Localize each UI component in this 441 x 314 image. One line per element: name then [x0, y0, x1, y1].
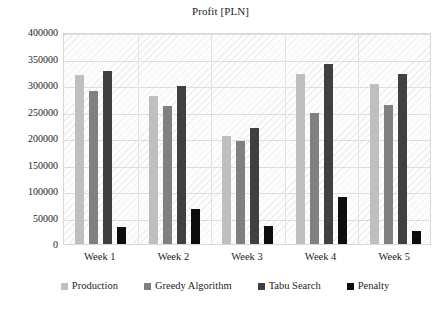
y-axis-tick-label: 250000 — [0, 108, 58, 118]
bar-production — [370, 84, 379, 244]
bar-tabu-search — [398, 74, 407, 244]
bar-greedy-algorithm — [384, 105, 393, 244]
bar-greedy-algorithm — [89, 91, 98, 244]
y-axis-tick-label: 400000 — [0, 28, 58, 38]
bar-greedy-algorithm — [310, 113, 319, 244]
bar-penalty — [191, 209, 200, 244]
legend-item-penalty[interactable]: Penalty — [347, 280, 390, 292]
legend-swatch-icon — [61, 283, 68, 290]
profit-bar-chart: Profit [PLN] 400000350000300000250000200… — [0, 0, 441, 314]
x-axis-tick-label: Week 3 — [210, 250, 284, 266]
legend-swatch-icon — [144, 283, 151, 290]
chart-legend: ProductionGreedy AlgorithmTabu SearchPen… — [20, 277, 430, 295]
bar-production — [75, 75, 84, 244]
bar-greedy-algorithm — [236, 141, 245, 244]
bar-production — [149, 96, 158, 244]
x-axis-tick-label: Week 2 — [137, 250, 211, 266]
bar-penalty — [412, 231, 421, 244]
bar-penalty — [264, 226, 273, 244]
bar-tabu-search — [324, 64, 333, 244]
bar-penalty — [117, 227, 126, 244]
x-axis: Week 1Week 2Week 3Week 4Week 5 — [63, 250, 431, 266]
y-axis-tick-label: 150000 — [0, 161, 58, 171]
bar-tabu-search — [103, 71, 112, 244]
bar-production — [222, 136, 231, 244]
legend-swatch-icon — [347, 283, 354, 290]
y-axis-tick-label: 50000 — [0, 214, 58, 224]
y-axis-tick-label: 300000 — [0, 81, 58, 91]
x-axis-tick-label: Week 5 — [357, 250, 431, 266]
legend-label: Tabu Search — [269, 280, 321, 292]
legend-item-tabu-search[interactable]: Tabu Search — [258, 280, 321, 292]
y-axis: 4000003500003000002500002000001500001000… — [0, 33, 58, 245]
legend-label: Penalty — [358, 280, 390, 292]
bar-greedy-algorithm — [163, 106, 172, 244]
x-axis-tick-label: Week 4 — [284, 250, 358, 266]
legend-label: Production — [72, 280, 118, 292]
bar-production — [296, 74, 305, 244]
chart-title: Profit [PLN] — [0, 5, 441, 17]
y-axis-tick-label: 100000 — [0, 187, 58, 197]
plot-area — [63, 33, 431, 245]
bar-group — [285, 34, 359, 244]
x-axis-tick-label: Week 1 — [63, 250, 137, 266]
y-axis-tick-label: 200000 — [0, 134, 58, 144]
legend-swatch-icon — [258, 283, 265, 290]
y-axis-tick-label: 350000 — [0, 55, 58, 65]
bars-layer — [64, 34, 430, 244]
bar-group — [358, 34, 431, 244]
legend-item-production[interactable]: Production — [61, 280, 118, 292]
bar-group — [64, 34, 138, 244]
bar-group — [138, 34, 212, 244]
bar-tabu-search — [177, 86, 186, 244]
legend-label: Greedy Algorithm — [155, 280, 232, 292]
y-axis-tick-label: 0 — [0, 240, 58, 250]
bar-tabu-search — [250, 128, 259, 244]
bar-penalty — [338, 197, 347, 244]
bar-group — [211, 34, 285, 244]
legend-item-greedy-algorithm[interactable]: Greedy Algorithm — [144, 280, 232, 292]
